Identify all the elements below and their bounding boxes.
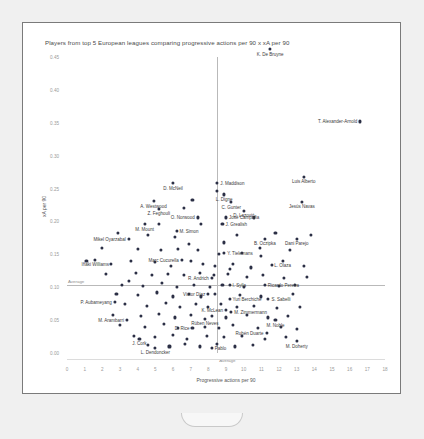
data-point[interactable] bbox=[147, 344, 150, 347]
data-point[interactable] bbox=[110, 262, 113, 265]
data-point[interactable] bbox=[194, 303, 197, 306]
data-point-labeled[interactable] bbox=[223, 251, 226, 254]
data-point-labeled[interactable] bbox=[171, 182, 174, 185]
data-point-labeled[interactable] bbox=[265, 332, 268, 335]
data-point-labeled[interactable] bbox=[126, 319, 129, 322]
data-point[interactable] bbox=[217, 253, 220, 256]
data-point-labeled[interactable] bbox=[274, 319, 277, 322]
data-point[interactable] bbox=[140, 315, 143, 318]
data-point[interactable] bbox=[186, 337, 189, 340]
data-point[interactable] bbox=[166, 273, 169, 276]
data-point[interactable] bbox=[200, 223, 203, 226]
data-point[interactable] bbox=[124, 303, 127, 306]
data-point-labeled[interactable] bbox=[242, 209, 245, 212]
data-point[interactable] bbox=[170, 264, 173, 267]
data-point-labeled[interactable] bbox=[127, 237, 130, 240]
data-point[interactable] bbox=[173, 316, 176, 319]
data-point[interactable] bbox=[302, 265, 305, 268]
data-point[interactable] bbox=[157, 312, 160, 315]
data-point[interactable] bbox=[201, 262, 204, 265]
data-point[interactable] bbox=[147, 233, 150, 236]
data-point-labeled[interactable] bbox=[152, 200, 155, 203]
data-point[interactable] bbox=[223, 336, 226, 339]
data-point-labeled[interactable] bbox=[281, 259, 284, 262]
data-point-labeled[interactable] bbox=[113, 301, 116, 304]
data-point[interactable] bbox=[209, 286, 212, 289]
data-point[interactable] bbox=[226, 273, 229, 276]
data-point[interactable] bbox=[133, 334, 136, 337]
data-point[interactable] bbox=[187, 242, 190, 245]
data-point[interactable] bbox=[210, 315, 213, 318]
data-point[interactable] bbox=[217, 326, 220, 329]
data-point[interactable] bbox=[253, 304, 256, 307]
data-point[interactable] bbox=[246, 275, 249, 278]
data-point-labeled[interactable] bbox=[210, 346, 213, 349]
data-point[interactable] bbox=[295, 328, 298, 331]
data-point[interactable] bbox=[260, 254, 263, 257]
data-point[interactable] bbox=[156, 291, 159, 294]
data-point[interactable] bbox=[216, 190, 219, 193]
data-point[interactable] bbox=[171, 295, 174, 298]
data-point[interactable] bbox=[224, 316, 227, 319]
data-point[interactable] bbox=[228, 267, 231, 270]
data-point[interactable] bbox=[309, 233, 312, 236]
data-point[interactable] bbox=[173, 236, 176, 239]
data-point[interactable] bbox=[143, 325, 146, 328]
data-point[interactable] bbox=[263, 337, 266, 340]
data-point[interactable] bbox=[235, 233, 238, 236]
data-point[interactable] bbox=[219, 303, 222, 306]
data-point-labeled[interactable] bbox=[207, 292, 210, 295]
data-point-labeled[interactable] bbox=[210, 276, 213, 279]
data-point-labeled[interactable] bbox=[221, 223, 224, 226]
data-point-labeled[interactable] bbox=[157, 207, 160, 210]
data-point[interactable] bbox=[198, 271, 201, 274]
bottom-handle[interactable] bbox=[181, 413, 243, 427]
data-point-labeled[interactable] bbox=[191, 326, 194, 329]
data-point-labeled[interactable] bbox=[263, 237, 266, 240]
data-point[interactable] bbox=[101, 246, 104, 249]
data-point[interactable] bbox=[251, 344, 254, 347]
data-point[interactable] bbox=[157, 223, 160, 226]
data-point[interactable] bbox=[262, 274, 265, 277]
data-point-labeled[interactable] bbox=[295, 340, 298, 343]
data-point[interactable] bbox=[191, 199, 194, 202]
data-point[interactable] bbox=[175, 286, 178, 289]
data-point[interactable] bbox=[235, 305, 238, 308]
data-point[interactable] bbox=[182, 207, 185, 210]
data-point[interactable] bbox=[111, 313, 114, 316]
data-point[interactable] bbox=[189, 259, 192, 262]
data-point-labeled[interactable] bbox=[154, 346, 157, 349]
data-point[interactable] bbox=[115, 292, 118, 295]
data-point[interactable] bbox=[288, 249, 291, 252]
data-point[interactable] bbox=[182, 274, 185, 277]
data-point[interactable] bbox=[129, 259, 132, 262]
data-point-labeled[interactable] bbox=[224, 216, 227, 219]
data-point[interactable] bbox=[285, 336, 288, 339]
data-point-labeled[interactable] bbox=[230, 311, 233, 314]
data-point[interactable] bbox=[171, 333, 174, 336]
data-point-labeled[interactable] bbox=[224, 308, 227, 311]
data-point[interactable] bbox=[299, 305, 302, 308]
data-point[interactable] bbox=[306, 275, 309, 278]
data-point[interactable] bbox=[196, 249, 199, 252]
data-point[interactable] bbox=[232, 262, 235, 265]
data-point[interactable] bbox=[205, 334, 208, 337]
data-point[interactable] bbox=[274, 232, 277, 235]
data-point-labeled[interactable] bbox=[196, 216, 199, 219]
data-point[interactable] bbox=[134, 271, 137, 274]
data-point-labeled[interactable] bbox=[143, 223, 146, 226]
data-point[interactable] bbox=[163, 323, 166, 326]
data-point[interactable] bbox=[198, 345, 201, 348]
data-point-labeled[interactable] bbox=[295, 237, 298, 240]
data-point[interactable] bbox=[270, 263, 273, 266]
data-point[interactable] bbox=[249, 266, 252, 269]
data-point[interactable] bbox=[117, 232, 120, 235]
data-point[interactable] bbox=[154, 336, 157, 339]
data-point-labeled[interactable] bbox=[267, 298, 270, 301]
data-point[interactable] bbox=[233, 345, 236, 348]
data-point[interactable] bbox=[141, 284, 144, 287]
data-point[interactable] bbox=[150, 274, 153, 277]
data-point[interactable] bbox=[292, 292, 295, 295]
data-point-labeled[interactable] bbox=[302, 175, 305, 178]
data-point-labeled[interactable] bbox=[94, 258, 97, 261]
